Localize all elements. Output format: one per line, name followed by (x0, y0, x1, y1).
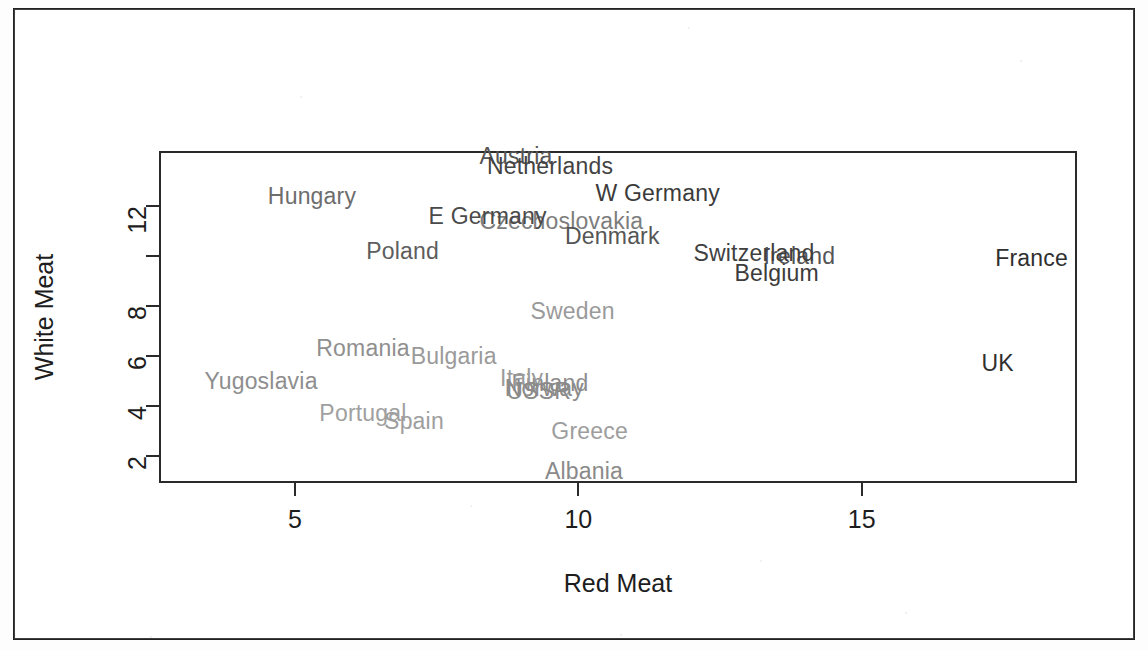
scan-artifact (620, 634, 622, 636)
scan-artifact (150, 636, 152, 638)
point-label: W Germany (595, 182, 719, 205)
point-label: Romania (316, 337, 409, 360)
point-label: Albania (545, 459, 623, 482)
point-label: Switzerland (693, 242, 814, 265)
scan-artifact (1020, 60, 1022, 62)
point-label: Hungary (268, 184, 356, 207)
point-label: Greece (551, 419, 628, 442)
x-tick-label: 10 (564, 505, 592, 534)
point-label: Netherlands (487, 154, 613, 177)
y-tick-label: 6 (123, 356, 152, 370)
y-axis-title: White Meat (30, 254, 59, 380)
point-label: UK (981, 352, 1013, 375)
x-tick-mark (577, 483, 579, 496)
point-label: Sweden (530, 299, 614, 322)
scan-artifact (470, 505, 472, 507)
scan-artifact (760, 560, 762, 562)
scan-artifact (300, 96, 302, 98)
point-label: Denmark (565, 224, 660, 247)
screenshot-root: 246812 51015 AlbaniaAustriaBelgiumBulgar… (0, 0, 1148, 650)
x-tick-mark (861, 483, 863, 496)
point-label: Spain (384, 409, 444, 432)
point-label: E Germany (429, 204, 547, 227)
x-tick-label: 5 (288, 505, 302, 534)
scan-artifact (688, 27, 690, 29)
point-label: Poland (366, 239, 439, 262)
scatter-plot: 246812 51015 AlbaniaAustriaBelgiumBulgar… (0, 0, 1148, 650)
x-tick-mark (294, 483, 296, 496)
y-tick-label: 12 (123, 206, 152, 234)
y-tick-label: 4 (123, 406, 152, 420)
point-label: Bulgaria (411, 344, 497, 367)
x-axis-title: Red Meat (564, 569, 672, 598)
y-tick-label: 2 (123, 456, 152, 470)
x-tick-label: 15 (848, 505, 876, 534)
point-label: France (995, 247, 1068, 270)
y-tick-label: 8 (123, 306, 152, 320)
point-label: Yugoslavia (204, 369, 317, 392)
y-tick-mark (146, 255, 159, 257)
scan-artifact (905, 612, 907, 614)
point-label: USSR (506, 379, 571, 402)
